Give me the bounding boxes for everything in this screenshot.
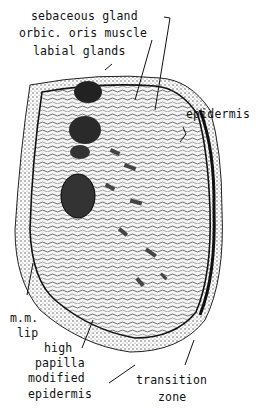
label-epidermis-top: epidermis xyxy=(186,108,250,121)
label-epidermis-bottom: epidermis xyxy=(28,388,92,401)
label-orbic-oris-muscle: orbic. oris muscle xyxy=(19,27,147,40)
label-zone: zone xyxy=(158,391,187,404)
label-mm-lip-2: lip xyxy=(17,327,38,340)
lip-histology-diagram: sebaceous gland orbic. oris muscle labia… xyxy=(0,0,266,411)
label-papilla: papilla xyxy=(35,357,85,370)
labial-gland xyxy=(74,81,102,103)
label-high: high xyxy=(44,342,73,355)
label-modified: modified xyxy=(28,372,85,385)
label-sebaceous-gland: sebaceous gland xyxy=(31,10,138,23)
label-mm-lip-1: m.m. xyxy=(10,312,39,325)
label-transition: transition xyxy=(136,374,207,387)
label-labial-glands: labial glands xyxy=(33,45,126,58)
gland-large xyxy=(61,174,95,218)
tissue-section-illustration xyxy=(0,0,266,411)
